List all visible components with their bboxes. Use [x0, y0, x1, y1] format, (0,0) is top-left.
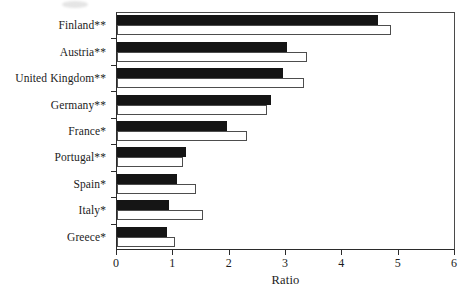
y-axis-tick [111, 118, 116, 119]
y-axis-tick [111, 224, 116, 225]
x-axis-tick-label-2: 2 [214, 256, 244, 271]
x-axis-tick-label-0: 0 [101, 256, 131, 271]
ratio-bar-chart: Finland**Austria**United Kingdom**German… [0, 0, 469, 295]
x-axis-tick-6 [454, 250, 455, 255]
x-axis-title: Ratio [116, 273, 455, 288]
x-axis-tick-label-4: 4 [326, 256, 356, 271]
y-axis-tick [111, 65, 116, 66]
y-axis-tick [111, 144, 116, 145]
y-axis-tick [111, 171, 116, 172]
x-axis-tick-5 [398, 250, 399, 255]
x-axis-tick-2 [229, 250, 230, 255]
y-axis-tick [111, 91, 116, 92]
axis-ticks-layer: 0123456 [0, 0, 469, 295]
x-axis-tick-label-1: 1 [157, 256, 187, 271]
x-axis-tick-0 [116, 250, 117, 255]
y-axis-tick [111, 197, 116, 198]
x-axis-tick-4 [341, 250, 342, 255]
y-axis-tick [111, 38, 116, 39]
x-axis-tick-label-5: 5 [383, 256, 413, 271]
x-axis-tick-label-3: 3 [270, 256, 300, 271]
x-axis-tick-1 [172, 250, 173, 255]
x-axis-tick-label-6: 6 [439, 256, 469, 271]
x-axis-tick-3 [285, 250, 286, 255]
